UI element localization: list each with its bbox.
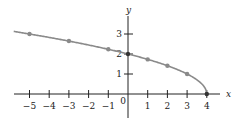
y-tick-label: 2 [116,49,122,59]
y-axis-label: y [125,5,132,15]
data-point [205,92,209,96]
data-point [106,47,110,51]
x-tick-label: −1 [102,101,115,111]
x-tick-label: −5 [23,101,37,111]
data-point [67,39,71,43]
curve-line [14,31,207,94]
x-tick-label: −4 [43,101,57,111]
x-tick-label: −3 [62,101,76,111]
x-tick-label: 2 [165,101,171,111]
data-points [27,32,209,96]
x-tick-label: 0 [120,96,126,106]
data-point [27,32,31,36]
data-point [126,52,130,56]
x-ticks: −5−4−3−2−101234 [23,90,210,111]
chart: −5−4−3−2−101234 123 x y [0,0,240,120]
data-point [185,72,189,76]
x-tick-label: 3 [184,101,190,111]
data-point [165,64,169,68]
x-axis-label: x [226,89,231,99]
x-tick-label: 4 [204,101,210,111]
data-point [146,57,150,61]
x-tick-label: 1 [145,101,151,111]
x-tick-label: −2 [82,101,95,111]
y-tick-label: 1 [116,69,122,79]
y-tick-label: 3 [116,29,122,39]
